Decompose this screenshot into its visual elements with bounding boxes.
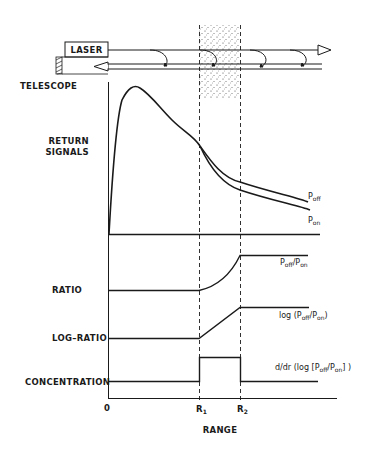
r2-label: R2: [237, 404, 248, 415]
return-label-2: SIGNALS: [45, 147, 89, 157]
ratio-curve-label: Poff/Pon: [280, 258, 308, 268]
range-axis-label: RANGE: [203, 425, 238, 435]
derivative-label: d/dr (log [Poff/Pon] ): [275, 363, 351, 373]
panel-return-signals: RETURN SIGNALS Poff Pon: [45, 87, 321, 235]
absorbing-gas-cloud: [199, 25, 240, 98]
laser-box: LASER: [65, 42, 108, 57]
dial-diagram: LASER TELESCOPE RETURN SIGNALS: [0, 0, 387, 452]
ratio-curve: [109, 256, 308, 291]
panel-concentration: CONCENTRATION d/dr (log [Poff/Pon] ): [25, 358, 351, 388]
p-on-curve: [200, 146, 310, 210]
concentration-label: CONCENTRATION: [25, 377, 110, 387]
p-on-label: Pon: [308, 216, 320, 226]
common-signal-curve: [109, 87, 200, 235]
return-arrow-icon: [94, 62, 108, 71]
telescope-label: TELESCOPE: [20, 81, 77, 91]
r1-label: R1: [196, 404, 207, 415]
x-axis: 0 R1 R2 RANGE: [104, 399, 337, 436]
ratio-label: RATIO: [52, 285, 82, 295]
log-ratio-label: LOG–RATIO: [52, 333, 107, 343]
panel-ratio: RATIO Poff/Pon: [52, 256, 308, 296]
log-ratio-curve-label: log (Poff/Pon): [279, 311, 328, 321]
return-label-1: RETURN: [48, 136, 89, 146]
panel-log-ratio: LOG–RATIO log (Poff/Pon): [52, 308, 328, 344]
beam-arrow-icon: [318, 45, 331, 55]
laser-label: LASER: [71, 45, 103, 55]
origin-label: 0: [104, 403, 110, 413]
p-off-label: Poff: [308, 192, 321, 202]
